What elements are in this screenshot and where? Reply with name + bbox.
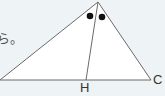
angle-mark-dot-right: [99, 14, 106, 21]
label-c: C: [153, 72, 162, 87]
label-h: H: [80, 80, 89, 95]
angle-mark-dot-left: [87, 13, 94, 20]
text-fragment: ら。: [0, 28, 23, 47]
